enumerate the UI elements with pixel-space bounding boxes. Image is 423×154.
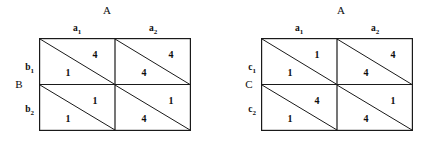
- cell-b-r0c1-upper: 4: [164, 49, 178, 60]
- column-player-title-b: A: [87, 4, 127, 16]
- column-player-title-c: A: [321, 4, 361, 16]
- cell-c-r1c1-lower: 4: [359, 113, 373, 124]
- cell-c-r0c0-lower: 1: [283, 67, 297, 78]
- cell-b-r1c1-upper: 1: [164, 95, 178, 106]
- cell-b-r1c0-upper: 1: [88, 95, 102, 106]
- row-header-b1: b1: [12, 62, 34, 75]
- matrix-b-grid: a1 a2 b1 b2 4 1 4 4 1 1 1 4: [39, 38, 191, 131]
- column-header-a1-b: a1: [52, 23, 102, 36]
- matrix-c-grid: a1 a2 c1 c2 1 1 4 4 4 1 1 4: [261, 38, 413, 131]
- row-header-c2: c2: [234, 104, 256, 117]
- column-header-a1-c: a1: [274, 23, 324, 36]
- cell-c-r0c1-lower: 4: [359, 67, 373, 78]
- cell-b-r0c1-lower: 4: [137, 67, 151, 78]
- row-player-title-b: B: [8, 78, 30, 90]
- cell-b-r0c0-upper: 4: [88, 49, 102, 60]
- row-header-c1: c1: [234, 62, 256, 75]
- payoff-matrix-c: A C a1 a2 c1 c2 1 1 4 4 4 1 1 4: [211, 0, 423, 154]
- column-header-a2-b: a2: [128, 23, 178, 36]
- cell-b-r1c1-lower: 4: [137, 113, 151, 124]
- row-player-title-c: C: [238, 78, 260, 90]
- cell-c-r1c0-lower: 1: [283, 113, 297, 124]
- cell-b-r1c0-lower: 1: [61, 113, 75, 124]
- cell-c-r0c1-upper: 4: [386, 49, 400, 60]
- cell-c-r1c0-upper: 4: [310, 95, 324, 106]
- cell-c-r0c0-upper: 1: [310, 49, 324, 60]
- payoff-matrix-b: A B a1 a2 b1 b2 4 1 4 4 1 1 1 4: [0, 0, 211, 154]
- cell-b-r0c0-lower: 1: [61, 67, 75, 78]
- column-header-a2-c: a2: [350, 23, 400, 36]
- cell-c-r1c1-upper: 1: [386, 95, 400, 106]
- row-header-b2: b2: [12, 104, 34, 117]
